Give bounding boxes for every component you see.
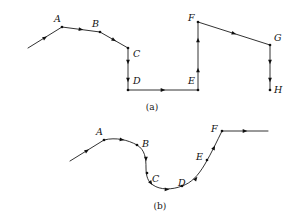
vertex-dot-c	[127, 47, 130, 50]
figure-sheet: ABCDEFGH(a)ABCDEF(b)	[0, 0, 294, 223]
panel-a-direction-arrow	[268, 60, 272, 65]
panel-b-direction-arrow	[165, 187, 170, 191]
vertex-label-e: E	[196, 152, 203, 162]
vertex-dot-a	[61, 26, 64, 29]
panel-a-direction-arrow	[161, 88, 166, 92]
vertex-label-a: A	[96, 127, 103, 137]
panel-a-direction-arrow	[231, 31, 237, 36]
vertex-label-d: D	[178, 178, 186, 188]
vertex-label-d: D	[133, 76, 141, 86]
vertex-label-b: B	[142, 139, 149, 149]
panel-a-direction-arrow	[196, 38, 200, 43]
vertex-label-e: E	[188, 76, 195, 86]
panel-a-direction-arrow	[126, 78, 130, 83]
vertex-label-g: G	[274, 33, 282, 43]
vertex-dot-h	[269, 89, 272, 92]
panel-a-direction-arrow	[111, 37, 117, 43]
vertex-label-f: F	[188, 13, 195, 23]
panel-a-direction-arrow	[196, 68, 200, 73]
panel-b-direction-arrow	[211, 145, 216, 151]
vertex-dot-b	[99, 31, 102, 34]
panel-a-direction-arrow	[78, 27, 83, 31]
panel-b-direction-arrow	[144, 157, 148, 162]
panel-b-direction-arrow	[119, 137, 124, 141]
vertex-label-c: C	[133, 49, 140, 59]
vertex-label-h: H	[274, 85, 282, 95]
vertex-label-b: B	[92, 19, 99, 29]
panel-b-path	[70, 131, 268, 189]
vertex-dot-e	[206, 159, 209, 162]
vertex-dot-e	[197, 89, 200, 92]
panel-b-direction-arrow	[84, 148, 90, 154]
vertex-dot-a	[103, 139, 106, 142]
panel-b-direction-arrow	[193, 176, 199, 182]
panel-a-direction-arrow	[42, 35, 48, 41]
vertex-label-c: C	[152, 174, 159, 184]
vertex-dot-b	[136, 144, 139, 147]
panel-a-caption: (a)	[140, 103, 164, 112]
vertex-dot-c	[146, 172, 149, 175]
panel-a-direction-arrow	[126, 60, 130, 65]
vertex-dot-f	[197, 21, 200, 24]
vertex-label-a: A	[54, 14, 61, 24]
panel-a-path	[28, 22, 270, 90]
vertex-label-f: F	[211, 124, 218, 134]
vertex-dot-d	[127, 89, 130, 92]
vertex-dot-f	[221, 130, 224, 133]
panel-b-direction-arrow	[243, 129, 248, 133]
panel-b-caption: (b)	[148, 202, 172, 211]
panel-a-direction-arrow	[268, 78, 272, 83]
vertex-dot-g	[269, 44, 272, 47]
